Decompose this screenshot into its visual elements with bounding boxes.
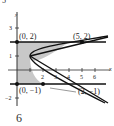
point-label: (0, 2) (19, 33, 36, 41)
x-tick: 6 (93, 74, 96, 80)
x-tick: 4 (67, 74, 70, 80)
top-label: 5 (2, 0, 6, 5)
point-label: (0, −1) (19, 87, 41, 95)
y-axis-label: y (15, 12, 17, 17)
point-label: (2, −1) (78, 88, 100, 96)
graph (0, 0, 114, 126)
point-label: (5, 2) (73, 33, 90, 41)
y-tick: −2 (5, 95, 11, 101)
point-2-neg1 (41, 82, 45, 86)
y-tick: 3 (9, 25, 12, 31)
x-tick: 2 (41, 74, 44, 80)
x-axis-label: x (109, 66, 112, 72)
figure-number: 6 (16, 112, 22, 124)
x-tick: 5 (80, 74, 83, 80)
y-tick: 1 (9, 53, 12, 59)
x-tick: 3 (54, 74, 57, 80)
